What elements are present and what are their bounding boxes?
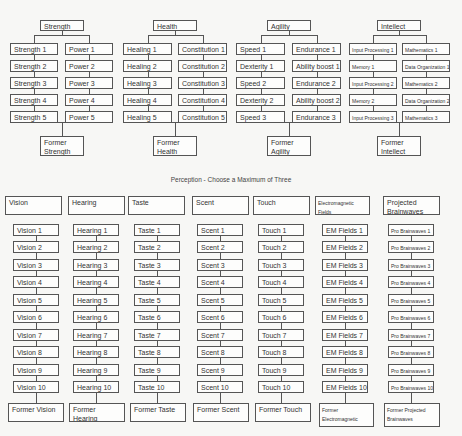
agility-node: Ability boost 2 — [292, 94, 341, 106]
taste-node: Taste 1 — [134, 224, 180, 236]
vision-header-node: Vision — [5, 196, 62, 215]
connector-line — [261, 35, 262, 43]
intellect-node: Memory 1 — [349, 60, 397, 72]
projected-brainwaves-node: Pro Brainwaves 5 — [388, 294, 434, 306]
agility-header-node: Agility — [267, 20, 311, 31]
strength-node: Strength 4 — [10, 94, 58, 106]
health-node: Constitution 4 — [178, 94, 227, 106]
former-agility-node: Former Agility — [267, 136, 311, 156]
connector-line — [261, 35, 318, 36]
intellect-node: Data Organization 1 — [402, 60, 450, 72]
touch-header-node: Touch — [253, 196, 310, 215]
agility-node: Dexterity 1 — [236, 60, 285, 72]
electromagnetic-fields-node: EM Fields 6 — [322, 311, 368, 323]
hearing-node: Hearing 10 — [73, 381, 119, 393]
projected-brainwaves-node: Pro Brainwaves 4 — [388, 276, 434, 288]
scent-node: Scent 3 — [197, 259, 243, 271]
intellect-node: Mathematics 2 — [402, 77, 450, 89]
health-node: Constitution 3 — [178, 77, 227, 89]
health-node: Healing 5 — [123, 111, 172, 123]
hearing-header-node: Hearing — [68, 196, 125, 215]
strength-node: Power 1 — [65, 43, 113, 55]
touch-node: Touch 5 — [258, 294, 304, 306]
projected-brainwaves-node: Pro Brainwaves 2 — [388, 241, 434, 253]
electromagnetic-fields-node: EM Fields 2 — [322, 241, 368, 253]
former-taste-node: Former Taste — [130, 403, 186, 422]
electromagnetic-fields-header-node: Electromagnetic Fields — [315, 196, 370, 215]
connector-line — [426, 35, 427, 43]
taste-node: Taste 8 — [134, 346, 180, 358]
vision-node: Vision 1 — [13, 224, 59, 236]
agility-node: Endurance 1 — [292, 43, 341, 55]
intellect-node: Input Processing 3 — [349, 111, 397, 123]
connector-line — [148, 35, 149, 43]
hearing-node: Hearing 6 — [73, 311, 119, 323]
vision-node: Vision 3 — [13, 259, 59, 271]
vision-node: Vision 9 — [13, 364, 59, 376]
health-node: Healing 1 — [123, 43, 172, 55]
perception-title: Perception - Choose a Maximum of Three — [0, 176, 462, 183]
hearing-node: Hearing 8 — [73, 346, 119, 358]
taste-node: Taste 6 — [134, 311, 180, 323]
agility-node: Ability boost 1 — [292, 60, 341, 72]
scent-node: Scent 9 — [197, 364, 243, 376]
projected-brainwaves-node: Pro Brainwaves 3 — [388, 259, 434, 271]
vision-node: Vision 6 — [13, 311, 59, 323]
touch-node: Touch 2 — [258, 241, 304, 253]
connector-line — [34, 35, 35, 43]
health-header-node: Health — [153, 20, 197, 31]
connector-line — [289, 122, 290, 136]
former-health-node: Former Health — [153, 136, 197, 156]
touch-node: Touch 10 — [258, 381, 304, 393]
former-touch-node: Former Touch — [255, 403, 311, 422]
projected-brainwaves-node: Pro Brainwaves 6 — [388, 311, 434, 323]
vision-node: Vision 5 — [13, 294, 59, 306]
scent-node: Scent 1 — [197, 224, 243, 236]
projected-brainwaves-node: Pro Brainwaves 10 — [388, 381, 434, 393]
vision-node: Vision 4 — [13, 276, 59, 288]
health-node: Constitution 1 — [178, 43, 227, 55]
hearing-node: Hearing 2 — [73, 241, 119, 253]
health-node: Constitution 2 — [178, 60, 227, 72]
projected-brainwaves-node: Pro Brainwaves 1 — [388, 224, 434, 236]
scent-node: Scent 5 — [197, 294, 243, 306]
strength-node: Power 3 — [65, 77, 113, 89]
connector-line — [317, 35, 318, 43]
intellect-node: Mathematics 3 — [402, 111, 450, 123]
intellect-header-node: Intellect — [377, 20, 421, 31]
hearing-node: Hearing 3 — [73, 259, 119, 271]
touch-node: Touch 4 — [258, 276, 304, 288]
hearing-node: Hearing 4 — [73, 276, 119, 288]
former-hearing-node: Former Hearing — [69, 403, 125, 422]
connector-line — [175, 122, 176, 136]
former-strength-node: Former Strength — [40, 136, 84, 156]
agility-node: Endurance 3 — [292, 111, 341, 123]
scent-header-node: Scent — [192, 196, 249, 215]
connector-line — [373, 35, 374, 43]
hearing-node: Hearing 1 — [73, 224, 119, 236]
intellect-node: Input Processing 2 — [349, 77, 397, 89]
hearing-node: Hearing 9 — [73, 364, 119, 376]
vision-node: Vision 7 — [13, 329, 59, 341]
touch-node: Touch 3 — [258, 259, 304, 271]
taste-node: Taste 2 — [134, 241, 180, 253]
strength-node: Strength 1 — [10, 43, 58, 55]
agility-node: Speed 2 — [236, 77, 285, 89]
projected-brainwaves-node: Pro Brainwaves 7 — [388, 329, 434, 341]
scent-node: Scent 10 — [197, 381, 243, 393]
electromagnetic-fields-node: EM Fields 8 — [322, 346, 368, 358]
electromagnetic-fields-node: EM Fields 4 — [322, 276, 368, 288]
former-electromagnetic-fields-node: Former Electromagnetic Fields — [319, 403, 374, 427]
electromagnetic-fields-node: EM Fields 7 — [322, 329, 368, 341]
agility-node: Speed 3 — [236, 111, 285, 123]
strength-node: Strength 3 — [10, 77, 58, 89]
connector-line — [203, 35, 204, 43]
former-intellect-node: Former Intellect — [377, 136, 421, 156]
vision-node: Vision 2 — [13, 241, 59, 253]
health-node: Healing 4 — [123, 94, 172, 106]
former-vision-node: Former Vision — [8, 403, 64, 422]
taste-node: Taste 3 — [134, 259, 180, 271]
former-scent-node: Former Scent — [193, 403, 249, 422]
intellect-node: Data Organization 2 — [402, 94, 450, 106]
touch-node: Touch 9 — [258, 364, 304, 376]
